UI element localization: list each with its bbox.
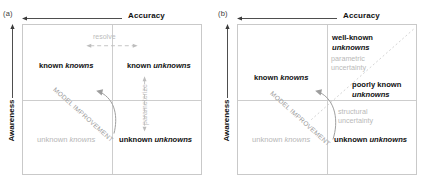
accuracy-arrow-icon xyxy=(237,15,337,22)
panel-a-tr-word1: known xyxy=(127,61,151,70)
panel-b: (b) Accuracy Awareness known knowns unkn… xyxy=(215,0,429,196)
panel-a-plot-area: resolve parameterize known knowns known … xyxy=(22,24,202,175)
awareness-arrow-icon xyxy=(224,24,231,98)
panel-b-horizontal-divider xyxy=(238,100,416,101)
panel-b-y-axis-title: Awareness xyxy=(222,89,231,153)
panel-b-parametric-line2: uncertainty xyxy=(331,63,366,72)
panel-b-quadrant-bottom-left: unknown knowns xyxy=(252,135,310,145)
panel-a-horizontal-divider xyxy=(23,100,201,101)
figure-container: (a) Accuracy Awareness resolve paramete xyxy=(0,0,429,196)
panel-b-quadrant-bottom-right: unknown unknowns xyxy=(334,135,407,145)
panel-b-structural-uncertainty: structural uncertainty xyxy=(338,107,373,125)
model-improvement-arrow-icon xyxy=(315,89,336,139)
panel-b-well-known-line1: well-known xyxy=(332,33,373,42)
panel-b-tl-word1: known xyxy=(254,73,278,82)
panel-b-poorly-known-unknowns: poorly known unknowns xyxy=(352,80,401,99)
panel-a-quadrant-top-left: known knowns xyxy=(39,61,93,71)
panel-a-y-axis-title: Awareness xyxy=(7,89,16,153)
panel-a-y-axis: Awareness xyxy=(3,24,19,174)
panel-a-br-word1: unknown xyxy=(119,135,152,144)
panel-b-y-axis: Awareness xyxy=(218,24,234,174)
panel-b-structural-line1: structural xyxy=(338,107,368,116)
panel-a-quadrant-top-right: known unknowns xyxy=(127,61,191,71)
panel-b-bl-word1: unknown xyxy=(252,135,282,144)
panel-a-x-axis-title: Accuracy xyxy=(128,11,165,20)
panel-a-bl-word2: knowns xyxy=(70,135,96,144)
panel-a-tl-word2: knowns xyxy=(65,61,93,70)
panel-a-bl-word1: unknown xyxy=(37,135,67,144)
panel-b-structural-line2: uncertainty xyxy=(338,116,373,125)
panel-b-quadrant-top-left: known knowns xyxy=(254,73,308,83)
panel-a: (a) Accuracy Awareness resolve paramete xyxy=(0,0,214,196)
accuracy-arrow-icon xyxy=(22,15,122,22)
panel-b-parametric-uncertainty: parametric uncertainty xyxy=(331,54,366,72)
panel-a-label: (a) xyxy=(3,9,13,18)
panel-a-quadrant-bottom-left: unknown knowns xyxy=(37,135,95,145)
panel-b-x-axis: Accuracy xyxy=(237,11,417,23)
awareness-arrow-icon xyxy=(9,24,16,98)
panel-b-bl-word2: knowns xyxy=(285,135,311,144)
panel-a-parameterize-label: parameterize xyxy=(141,84,148,125)
panel-b-label: (b) xyxy=(218,9,228,18)
panel-a-br-word2: unknowns xyxy=(154,135,192,144)
panel-b-poorly-known-line2: unknowns xyxy=(352,90,390,99)
panel-b-tl-word2: knowns xyxy=(280,73,308,82)
panel-a-tr-word2: unknowns xyxy=(153,61,191,70)
panel-b-well-known-line2: unknowns xyxy=(332,43,370,52)
panel-a-quadrant-bottom-right: unknown unknowns xyxy=(119,135,192,145)
panel-a-tl-word1: known xyxy=(39,61,63,70)
panel-b-plot-area: known knowns unknown knowns unknown unkn… xyxy=(237,24,417,175)
panel-a-resolve-label: resolve xyxy=(93,33,116,40)
panel-b-poorly-known-line1: poorly known xyxy=(352,80,401,89)
panel-b-x-axis-title: Accuracy xyxy=(343,11,380,20)
panel-b-br-word1: unknown xyxy=(334,135,367,144)
panel-b-parametric-line1: parametric xyxy=(331,54,365,63)
panel-a-x-axis: Accuracy xyxy=(22,11,202,23)
panel-b-br-word2: unknowns xyxy=(369,135,407,144)
panel-b-well-known-unknowns: well-known unknowns xyxy=(332,33,373,52)
